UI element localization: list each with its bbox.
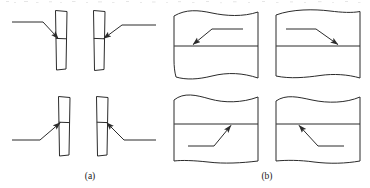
panel-a3 [12,97,70,157]
bar-outline-a4 [97,97,109,157]
leader-line-a1 [12,22,58,39]
caption-group-b: (b) [261,171,272,182]
panel-a4 [97,97,157,157]
panel-b3 [174,95,258,163]
panel-b4 [276,97,360,164]
panel-a2 [94,11,157,71]
panel-outline-b4 [276,97,360,164]
panel-b2 [276,10,360,78]
figure-root: (a) [0,0,370,188]
panel-b1 [174,11,258,79]
leader-line-b1 [193,29,243,45]
bar-outline-a1 [56,11,68,71]
panel-outline-b2 [276,10,360,78]
leader-line-b4 [299,125,344,146]
bar-outline-a3 [59,97,71,157]
caption-group-a: (a) [85,171,96,182]
panel-outline-b3 [174,95,258,163]
leader-line-a4 [107,123,156,140]
leader-line-a2 [104,25,156,39]
group-b: (b) [174,10,360,182]
panel-outline-b1 [174,11,258,79]
technical-drawing-canvas: (a) [0,0,370,188]
group-a: (a) [12,11,156,183]
panel-a1 [12,11,67,71]
leader-line-a3 [12,123,60,140]
leader-line-b3 [188,125,231,146]
bar-outline-a2 [94,11,106,71]
leader-line-b2 [286,29,338,45]
